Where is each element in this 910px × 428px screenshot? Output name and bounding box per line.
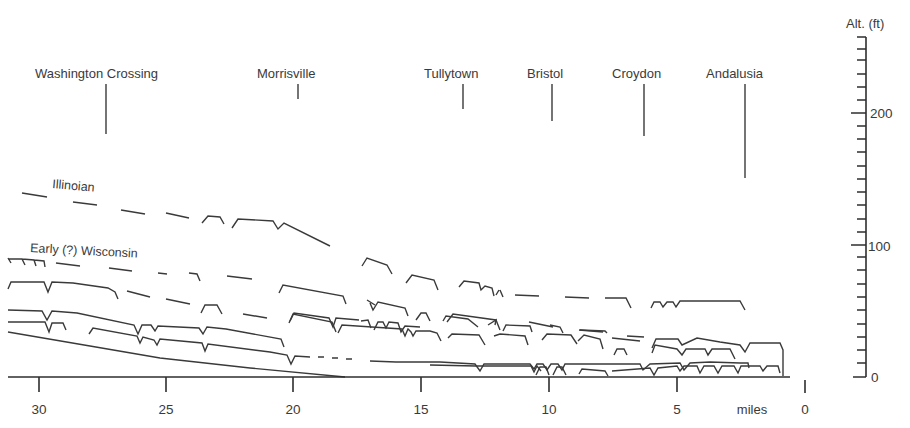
terrace-profile-diagram: Washington Crossing Morrisville Tullytow… — [0, 0, 910, 428]
place-label-bristol: Bristol — [527, 66, 563, 81]
surface-label-early-wisconsin: Early (?) Wisconsin — [30, 241, 138, 261]
altitude-tick-0: 0 — [871, 370, 879, 385]
place-label-croydon: Croydon — [612, 66, 661, 81]
place-label-andalusia: Andalusia — [706, 66, 764, 81]
altitude-ticks — [851, 37, 866, 377]
x-axis-unit-label: miles — [737, 402, 768, 417]
place-labels: Washington Crossing Morrisville Tullytow… — [35, 66, 764, 178]
x-tick-5: 5 — [673, 402, 681, 417]
x-axis: 30 25 20 15 10 5 0 miles — [8, 377, 809, 417]
altitude-axis-title: Alt. (ft) — [846, 16, 884, 31]
altitude-tick-100: 100 — [868, 239, 891, 254]
bedrock-floor-line — [8, 332, 345, 377]
altitude-tick-200: 200 — [870, 106, 893, 121]
surface-label-illinoian: Illinoian — [52, 177, 95, 195]
place-label-morrisville: Morrisville — [257, 66, 316, 81]
x-tick-15: 15 — [413, 402, 428, 417]
place-label-tullytown: Tullytown — [424, 66, 478, 81]
early-wisconsin-surface — [8, 258, 644, 337]
x-tick-10: 10 — [541, 402, 556, 417]
terrace-6 — [430, 365, 780, 376]
altitude-scale: Alt. (ft) — [846, 16, 893, 385]
place-label-washington-crossing: Washington Crossing — [35, 66, 158, 81]
terrace-5 — [8, 322, 749, 371]
x-tick-0: 0 — [801, 402, 809, 417]
x-tick-30: 30 — [31, 402, 46, 417]
terrace-4 — [8, 310, 735, 359]
x-tick-25: 25 — [158, 402, 173, 417]
x-tick-20: 20 — [285, 402, 300, 417]
